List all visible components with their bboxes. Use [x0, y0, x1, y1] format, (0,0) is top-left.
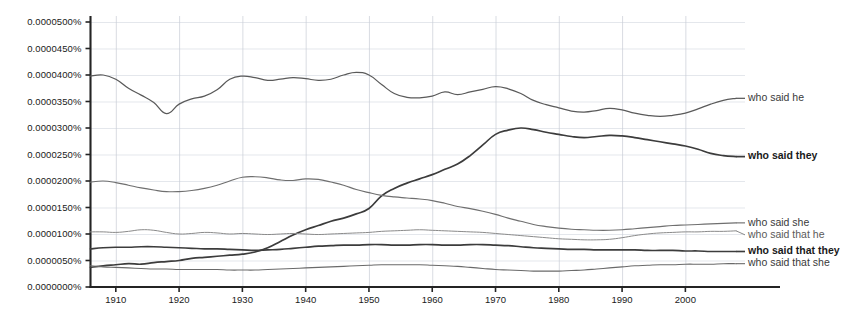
y-tick-label: 0.0000500%: [27, 16, 82, 27]
x-tick-label: 1930: [232, 294, 253, 305]
series-label-who-said-they[interactable]: who said they: [747, 149, 818, 161]
series-label-who-said-he[interactable]: who said he: [747, 91, 804, 103]
ngram-chart: 0.0000500%0.0000450%0.0000400%0.0000350%…: [0, 0, 851, 321]
series-label-who-said-she[interactable]: who said she: [747, 216, 809, 228]
x-tick-label: 1990: [612, 294, 633, 305]
chart-axes: [90, 16, 781, 288]
y-tick-label: 0.0000400%: [27, 69, 82, 80]
y-tick-label: 0.0000300%: [27, 122, 82, 133]
series-label-who-said-that-they[interactable]: who said that they: [747, 244, 840, 256]
series-line-who-said-he: [91, 72, 737, 116]
x-tick-label: 1910: [105, 294, 126, 305]
y-tick-label: 0.0000100%: [27, 228, 82, 239]
y-axis-tick-labels: 0.0000500%0.0000450%0.0000400%0.0000350%…: [27, 16, 82, 292]
series-line-who-said-she: [91, 177, 737, 231]
x-tick-label: 1960: [422, 294, 443, 305]
series-line-who-said-that-she: [91, 264, 737, 272]
x-tick-label: 2000: [675, 294, 696, 305]
y-tick-label: 0.0000050%: [27, 255, 82, 266]
x-tick-label: 1980: [548, 294, 569, 305]
y-tick-label: 0.0000000%: [27, 281, 82, 292]
series-label-who-said-that-she[interactable]: who said that she: [747, 256, 830, 268]
vertical-gridlines: [116, 16, 686, 287]
y-tick-label: 0.0000250%: [27, 149, 82, 160]
y-tick-label: 0.0000350%: [27, 96, 82, 107]
series-line-who-said-they: [91, 128, 737, 267]
y-tick-label: 0.0000200%: [27, 175, 82, 186]
x-tick-label: 1950: [358, 294, 379, 305]
x-tick-label: 1970: [485, 294, 506, 305]
y-tick-label: 0.0000150%: [27, 202, 82, 213]
series-inline-labels[interactable]: who said hewho said theywho said shewho …: [736, 91, 840, 268]
horizontal-gridlines: [91, 23, 746, 262]
x-axis-tick-labels: 1910192019301940195019601970198019902000: [105, 294, 696, 305]
series-line-who-said-that-they: [91, 245, 737, 252]
x-tick-label: 1940: [295, 294, 316, 305]
series-label-who-said-that-he[interactable]: who said that he: [747, 228, 825, 240]
y-tick-label: 0.0000450%: [27, 43, 82, 54]
x-tick-label: 1920: [169, 294, 190, 305]
ngram-plot-svg: 0.0000500%0.0000450%0.0000400%0.0000350%…: [0, 0, 851, 321]
